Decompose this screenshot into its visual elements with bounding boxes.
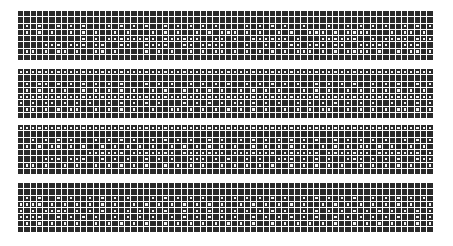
cell xyxy=(320,113,325,118)
cell xyxy=(87,183,92,188)
dotted-cell xyxy=(144,100,149,105)
cell xyxy=(264,30,269,35)
cell xyxy=(119,30,124,35)
dotted-cell xyxy=(345,125,350,130)
dotted-cell xyxy=(175,196,180,201)
dotted-cell xyxy=(270,150,275,155)
cell xyxy=(232,156,237,161)
cell xyxy=(421,42,426,47)
dotted-cell xyxy=(364,208,369,213)
cell xyxy=(49,75,54,80)
cell xyxy=(364,183,369,188)
cell xyxy=(18,150,23,155)
cell xyxy=(257,17,262,22)
cell xyxy=(119,55,124,60)
cell xyxy=(112,113,117,118)
cell xyxy=(150,202,155,207)
dotted-cell xyxy=(220,88,225,93)
cell xyxy=(194,17,199,22)
dotted-cell xyxy=(264,125,269,130)
cell xyxy=(276,75,281,80)
cell xyxy=(175,11,180,16)
dotted-cell xyxy=(402,150,407,155)
cell xyxy=(358,82,363,87)
dotted-cell xyxy=(112,156,117,161)
cell xyxy=(415,131,420,136)
cell xyxy=(295,169,300,174)
cell xyxy=(125,49,130,54)
dotted-cell xyxy=(427,36,432,41)
cell xyxy=(62,169,67,174)
cell xyxy=(390,11,395,16)
cell xyxy=(150,163,155,168)
dotted-cell xyxy=(112,150,117,155)
cell xyxy=(220,131,225,136)
cell xyxy=(62,144,67,149)
cell xyxy=(226,42,231,47)
cell xyxy=(314,11,319,16)
cell xyxy=(226,24,231,29)
cell xyxy=(75,11,80,16)
dotted-cell xyxy=(358,163,363,168)
dotted-cell xyxy=(396,82,401,87)
cell xyxy=(421,169,426,174)
cell xyxy=(377,196,382,201)
cell xyxy=(81,113,86,118)
cell xyxy=(157,221,162,226)
cell xyxy=(207,163,212,168)
dotted-cell xyxy=(94,150,99,155)
cell xyxy=(396,113,401,118)
cell xyxy=(201,183,206,188)
dotted-cell xyxy=(232,100,237,105)
cell xyxy=(383,144,388,149)
cell xyxy=(238,30,243,35)
cell xyxy=(188,214,193,219)
cell xyxy=(138,227,143,232)
cell xyxy=(402,169,407,174)
cell xyxy=(226,214,231,219)
dotted-cell xyxy=(289,163,294,168)
cell xyxy=(131,82,136,87)
cell xyxy=(289,75,294,80)
cell xyxy=(257,11,262,16)
cell xyxy=(213,131,218,136)
cell xyxy=(43,227,48,232)
dotted-cell xyxy=(119,82,124,87)
dotted-cell xyxy=(112,202,117,207)
dotted-cell xyxy=(427,202,432,207)
cell xyxy=(264,208,269,213)
cell xyxy=(320,214,325,219)
cell xyxy=(314,107,319,112)
cell xyxy=(31,221,36,226)
dotted-cell xyxy=(245,125,250,130)
cell xyxy=(238,24,243,29)
cell xyxy=(182,138,187,143)
cell xyxy=(207,196,212,201)
dotted-cell xyxy=(169,150,174,155)
cell xyxy=(213,227,218,232)
cell xyxy=(396,24,401,29)
cell xyxy=(301,30,306,35)
cell xyxy=(232,11,237,16)
dotted-cell xyxy=(119,125,124,130)
cell xyxy=(56,202,61,207)
cell xyxy=(421,131,426,136)
dotted-cell xyxy=(68,125,73,130)
cell xyxy=(75,214,80,219)
cell xyxy=(238,17,243,22)
dotted-cell xyxy=(276,100,281,105)
dotted-cell xyxy=(87,100,92,105)
cell xyxy=(62,24,67,29)
dotted-cell xyxy=(207,138,212,143)
cell xyxy=(18,189,23,194)
dotted-cell xyxy=(282,221,287,226)
cell xyxy=(308,131,313,136)
cell xyxy=(87,227,92,232)
dotted-cell xyxy=(257,82,262,87)
cell xyxy=(37,163,42,168)
cell xyxy=(207,55,212,60)
cell xyxy=(377,88,382,93)
dotted-cell xyxy=(75,125,80,130)
cell xyxy=(264,82,269,87)
cell xyxy=(408,113,413,118)
